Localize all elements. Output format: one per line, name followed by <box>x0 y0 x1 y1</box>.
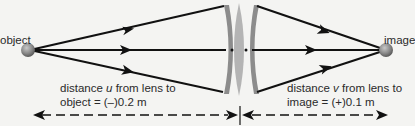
object-label: object <box>0 33 31 47</box>
caption-text: distance <box>287 82 333 94</box>
caption-text: from lens to <box>112 82 175 94</box>
caption-text: from lens to <box>339 82 402 94</box>
distance-u-value: object = (–)0.2 m <box>60 95 176 109</box>
caption-text: distance <box>60 82 106 94</box>
distance-u-line1: distance u from lens to <box>60 81 176 95</box>
distance-u-caption: distance u from lens to object = (–)0.2 … <box>60 81 176 109</box>
lens-surface-point <box>245 49 248 52</box>
distance-v-caption: distance v from lens to image = (+)0.1 m <box>287 81 402 109</box>
refracted-rays <box>252 6 386 92</box>
center-convex-lens-icon <box>234 3 244 96</box>
distance-v-value: image = (+)0.1 m <box>287 95 402 109</box>
lens-surface-point <box>231 49 234 52</box>
arrow-right-icon <box>376 110 388 120</box>
distance-v-line1: distance v from lens to <box>287 81 402 95</box>
image-label: image <box>384 33 415 47</box>
